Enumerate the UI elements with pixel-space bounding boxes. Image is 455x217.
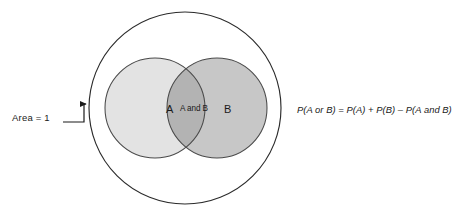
area-callout-leader-line xyxy=(63,104,86,122)
area-equals-one-label: Area = 1 xyxy=(12,113,50,123)
probability-formula-label: P(A or B) = P(A) + P(B) – P(A and B) xyxy=(297,105,452,114)
intersection-label: A and B xyxy=(180,105,208,113)
venn-diagram-figure: Area = 1 A A and B B P(A or B) = P(A) + … xyxy=(0,0,455,217)
set-b-label: B xyxy=(224,104,231,115)
set-a-label: A xyxy=(166,104,173,115)
